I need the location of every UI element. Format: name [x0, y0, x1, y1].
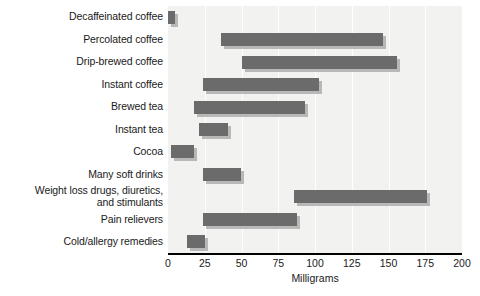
category-label: Many soft drinks [0, 169, 163, 181]
range-bar-fill [168, 11, 175, 24]
range-bar-fill [199, 123, 228, 136]
category-label: Percolated coffee [0, 34, 163, 46]
range-bar [242, 56, 398, 69]
plot-area [168, 6, 462, 253]
category-label: Cold/allergy remedies [0, 236, 163, 248]
range-bar [203, 168, 241, 181]
range-bar [187, 235, 205, 248]
x-tick-label: 150 [380, 257, 398, 269]
x-tick-label: 125 [343, 257, 361, 269]
range-bar [203, 213, 297, 226]
x-tick-label: 75 [272, 257, 284, 269]
gridline [462, 6, 463, 253]
range-bar-fill [203, 213, 297, 226]
x-tick-label: 200 [453, 257, 471, 269]
range-bar [294, 190, 426, 203]
x-axis-title: Milligrams [168, 272, 462, 284]
category-label: Decaffeinated coffee [0, 11, 163, 23]
range-bar-fill [203, 78, 319, 91]
range-bar-fill [187, 235, 205, 248]
category-label: Instant tea [0, 124, 163, 136]
range-bar [168, 11, 175, 24]
gridline [389, 6, 390, 253]
range-bar-fill [171, 145, 195, 158]
x-axis-line [168, 253, 462, 255]
category-label: Weight loss drugs, diuretics, and stimul… [0, 185, 163, 208]
x-tick-label: 25 [199, 257, 211, 269]
range-bar [221, 33, 383, 46]
range-bar-fill [242, 56, 398, 69]
x-tick-label: 175 [416, 257, 434, 269]
range-bar [171, 145, 195, 158]
x-tick-label: 0 [165, 257, 171, 269]
gridline [425, 6, 426, 253]
category-label: Pain relievers [0, 214, 163, 226]
range-bar [203, 78, 319, 91]
category-label: Instant coffee [0, 79, 163, 91]
caffeine-range-chart: Decaffeinated coffeePercolated coffeeDri… [0, 0, 480, 296]
range-bar-fill [294, 190, 426, 203]
x-tick-label: 50 [236, 257, 248, 269]
category-label: Drip-brewed coffee [0, 56, 163, 68]
range-bar [199, 123, 228, 136]
range-bar-fill [221, 33, 383, 46]
category-label: Cocoa [0, 146, 163, 158]
x-tick-label: 100 [306, 257, 324, 269]
range-bar [194, 101, 304, 114]
category-label: Brewed tea [0, 101, 163, 113]
category-label-column: Decaffeinated coffeePercolated coffeeDri… [0, 0, 163, 248]
range-bar-fill [203, 168, 241, 181]
range-bar-fill [194, 101, 304, 114]
